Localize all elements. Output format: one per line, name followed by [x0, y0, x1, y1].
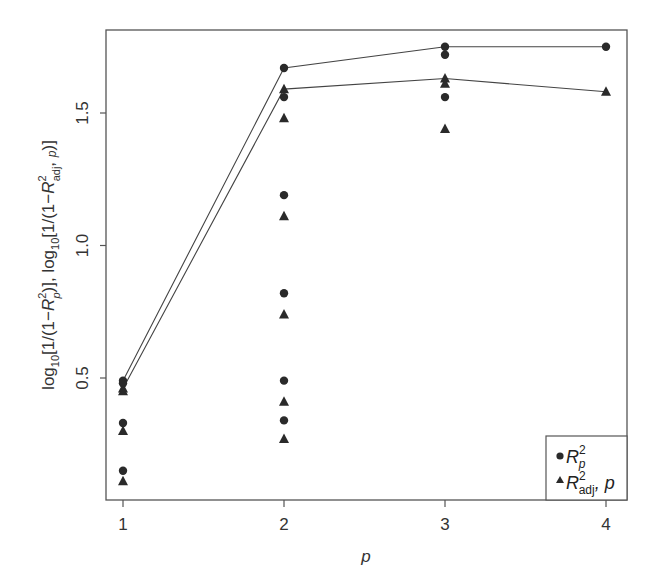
triangle-point-icon	[279, 113, 289, 123]
x-axis: 1234	[118, 500, 610, 534]
y-tick-label: 0.5	[73, 366, 92, 390]
data-points	[118, 43, 611, 486]
triangle-point-icon	[279, 211, 289, 221]
x-tick-label: 4	[601, 515, 610, 534]
triangle-point-icon	[279, 433, 289, 443]
legend-r-label: R	[566, 447, 579, 467]
circle-point-icon	[119, 467, 127, 475]
plot-frame	[106, 30, 627, 500]
legend-adj-label: R	[566, 473, 579, 493]
y-tick-label: 1.0	[73, 234, 92, 258]
circle-point-icon	[280, 376, 288, 384]
legend-adj-sup: 2	[579, 469, 586, 483]
x-tick-label: 2	[279, 515, 288, 534]
circle-point-icon	[280, 93, 288, 101]
x-tick-label: 3	[440, 515, 449, 534]
max-lines	[123, 47, 606, 389]
triangle-point-icon	[279, 309, 289, 319]
triangle-point-icon	[440, 123, 450, 132]
chart: 0.51.01.5 1234 p log10[1/(1−R2p)], log10…	[0, 0, 659, 587]
y-tick-label: 1.5	[73, 101, 92, 125]
x-tick-label: 1	[118, 515, 127, 534]
circle-point-icon	[441, 51, 449, 59]
triangle-point-icon	[118, 476, 128, 486]
circle-point-icon	[441, 43, 449, 51]
circle-point-icon	[441, 93, 449, 101]
max-line	[123, 79, 606, 389]
legend-circle-icon	[556, 452, 563, 459]
x-axis-label: p	[360, 547, 370, 566]
legend-r-sup: 2	[579, 443, 586, 457]
max-line	[123, 47, 606, 381]
legend-adj-tail: , p	[595, 473, 615, 493]
svg-text:R2p: R2p	[566, 443, 586, 471]
circle-point-icon	[280, 64, 288, 72]
legend: R2p R2adj, p	[546, 436, 627, 500]
circle-point-icon	[280, 191, 288, 199]
svg-text:log10[1/(1−R2p)], log10[1/(1−R: log10[1/(1−R2p)], log10[1/(1−R2adj, p)]	[36, 140, 62, 390]
legend-adj-sub: adj	[579, 483, 595, 497]
triangle-point-icon	[118, 426, 128, 436]
y-axis-label: log10[1/(1−R2p)], log10[1/(1−R2adj, p)]	[36, 140, 62, 390]
y-axis: 0.51.01.5	[73, 101, 106, 390]
circle-point-icon	[602, 43, 610, 51]
circle-point-icon	[280, 416, 288, 424]
triangle-point-icon	[279, 396, 289, 406]
circle-point-icon	[280, 289, 288, 297]
